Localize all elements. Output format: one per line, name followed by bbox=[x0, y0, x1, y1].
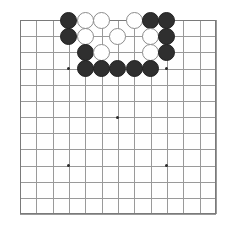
black-stone[interactable] bbox=[77, 44, 94, 61]
go-board-app bbox=[0, 0, 231, 230]
black-stone[interactable] bbox=[142, 12, 159, 29]
black-stone[interactable] bbox=[158, 12, 175, 29]
white-stone[interactable] bbox=[93, 12, 110, 29]
white-stone[interactable] bbox=[142, 28, 159, 45]
black-stone[interactable] bbox=[77, 60, 94, 77]
black-stone[interactable] bbox=[142, 60, 159, 77]
white-stone[interactable] bbox=[77, 12, 94, 29]
white-stone[interactable] bbox=[93, 44, 110, 61]
black-stone[interactable] bbox=[126, 60, 143, 77]
white-stone[interactable] bbox=[142, 44, 159, 61]
grid-line-vertical bbox=[216, 20, 217, 214]
black-stone[interactable] bbox=[60, 12, 77, 29]
white-stone[interactable] bbox=[77, 28, 94, 45]
black-stone[interactable] bbox=[93, 60, 110, 77]
go-board[interactable] bbox=[20, 20, 216, 214]
grid-line-horizontal bbox=[20, 214, 216, 215]
white-stone[interactable] bbox=[126, 12, 143, 29]
